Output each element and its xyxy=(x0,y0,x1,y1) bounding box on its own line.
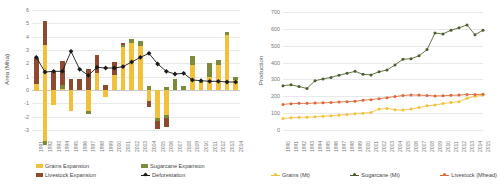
x-tick-label: 1994 xyxy=(317,141,323,152)
line-marker xyxy=(51,69,56,74)
series-marker xyxy=(466,23,469,26)
series-marker xyxy=(426,48,429,51)
x-tick-label: 2003 xyxy=(389,141,395,152)
x-tick-label: 1997 xyxy=(341,141,347,152)
production-lines xyxy=(283,12,483,130)
x-tick-label: 2002 xyxy=(134,141,140,152)
right-y-axis-label: Production xyxy=(257,46,264,96)
y-tick-label: 400 xyxy=(264,60,280,66)
x-tick-label: 1991 xyxy=(293,141,299,152)
x-tick-label: 2014 xyxy=(477,141,483,152)
series-marker xyxy=(442,32,445,35)
series-marker xyxy=(402,58,405,61)
legend-swatch-icon xyxy=(36,164,43,168)
x-tick-label: 1992 xyxy=(47,141,53,152)
x-tick-label: 2015 xyxy=(485,141,491,152)
series-marker xyxy=(314,79,317,82)
line-marker xyxy=(216,79,221,84)
series-marker xyxy=(346,113,349,116)
y-tick-label: 0 xyxy=(264,127,280,133)
series-marker xyxy=(474,93,477,96)
series-marker xyxy=(442,102,445,105)
series-marker xyxy=(322,77,325,80)
line-marker xyxy=(43,70,48,75)
line-marker xyxy=(225,80,230,85)
x-tick-label: 2010 xyxy=(445,141,451,152)
line-marker xyxy=(121,64,126,69)
x-tick-label: 2009 xyxy=(437,141,443,152)
series-marker xyxy=(338,114,341,117)
series-marker xyxy=(418,106,421,109)
legend-item[interactable]: Grains Expansion xyxy=(36,163,141,169)
series-marker xyxy=(450,29,453,32)
series-marker xyxy=(418,94,421,97)
legend-line-icon xyxy=(350,175,359,176)
legend-item[interactable]: Sugarcane Expansion xyxy=(141,163,246,169)
series-marker xyxy=(346,72,349,75)
series-marker xyxy=(290,102,293,105)
x-tick-label: 2012 xyxy=(220,141,226,152)
x-tick-label: 2009 xyxy=(194,141,200,152)
legend-item[interactable]: Livestock Expansion xyxy=(36,172,141,178)
legend-line-icon xyxy=(271,175,280,176)
line-marker xyxy=(233,80,238,85)
series-marker xyxy=(410,57,413,60)
legend-swatch-icon xyxy=(141,164,148,168)
y-tick-label: 3 xyxy=(16,47,29,53)
legend-label: Grains Expansion xyxy=(45,163,89,169)
x-tick-label: 2001 xyxy=(125,141,131,152)
figure-root: Area (Mha) Grains ExpansionSugarcane Exp… xyxy=(0,0,498,192)
x-tick-label: 1997 xyxy=(90,141,96,152)
x-tick-label: 2013 xyxy=(229,141,235,152)
x-tick-label: 2008 xyxy=(186,141,192,152)
legend-label: Livestock Expansion xyxy=(45,172,96,178)
x-tick-label: 1999 xyxy=(357,141,363,152)
x-tick-label: 1992 xyxy=(301,141,307,152)
series-marker xyxy=(458,100,461,103)
x-tick-label: 2002 xyxy=(381,141,387,152)
line-marker xyxy=(129,60,134,65)
series-marker xyxy=(394,108,397,111)
series-marker xyxy=(354,70,357,73)
series-marker xyxy=(354,100,357,103)
x-tick-label: 2005 xyxy=(160,141,166,152)
series-marker xyxy=(378,108,381,111)
series-marker xyxy=(314,115,317,118)
series-marker xyxy=(386,68,389,71)
series-marker xyxy=(466,97,469,100)
series-marker xyxy=(362,73,365,76)
series-marker xyxy=(434,32,437,35)
x-tick-label: 2012 xyxy=(461,141,467,152)
line-marker xyxy=(207,79,212,84)
series-marker xyxy=(330,114,333,117)
x-tick-label: 2006 xyxy=(413,141,419,152)
line-marker xyxy=(69,49,74,54)
series-marker xyxy=(298,116,301,119)
x-tick-label: 2010 xyxy=(203,141,209,152)
right-plot-area xyxy=(283,12,483,130)
series-marker xyxy=(314,102,317,105)
series-marker xyxy=(378,70,381,73)
series-marker xyxy=(330,101,333,104)
series-marker xyxy=(338,101,341,104)
x-tick-label: 2003 xyxy=(142,141,148,152)
series-marker xyxy=(306,102,309,105)
line-marker xyxy=(103,66,108,71)
series-marker xyxy=(290,83,293,86)
series-marker xyxy=(306,116,309,119)
y-tick-label: 700 xyxy=(264,9,280,15)
legend-item[interactable]: Livestock (Mhead) xyxy=(440,172,497,178)
legend-item[interactable]: Deforestation xyxy=(141,172,246,178)
x-tick-label: 2011 xyxy=(453,141,459,152)
series-marker xyxy=(474,33,477,36)
series-marker xyxy=(434,94,437,97)
series-marker xyxy=(282,84,285,87)
series-marker xyxy=(298,102,301,105)
x-tick-label: 2005 xyxy=(405,141,411,152)
legend-label: Grains (Mt) xyxy=(282,172,310,178)
legend-item[interactable]: Grains (Mt) xyxy=(271,172,310,178)
x-tick-label: 1991 xyxy=(38,141,44,152)
x-tick-label: 2008 xyxy=(429,141,435,152)
series-line xyxy=(283,25,483,89)
legend-item[interactable]: Sugarcane (Mt) xyxy=(350,172,400,178)
